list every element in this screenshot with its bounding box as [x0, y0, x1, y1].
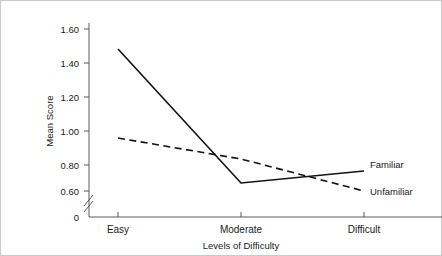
x-category-label-easy: Easy: [107, 224, 129, 235]
line-chart: 1.60 1.40 1.20 1.00 0.80 0.60 0 Easy Mod…: [1, 1, 442, 256]
series-line-familiar: [118, 49, 364, 183]
y-tick-label-0.80: 0.80: [61, 160, 80, 171]
figure-container: 1.60 1.40 1.20 1.00 0.80 0.60 0 Easy Mod…: [0, 0, 442, 256]
y-tick-label-0.60: 0.60: [61, 186, 80, 197]
y-tick-label-0: 0: [74, 212, 79, 223]
series-label-familiar: Familiar: [370, 159, 404, 170]
y-tick-label-1.00: 1.00: [61, 126, 80, 137]
y-tick-label-1.60: 1.60: [61, 24, 80, 35]
x-category-label-moderate: Moderate: [220, 224, 263, 235]
y-axis-title: Mean Score: [44, 95, 55, 146]
y-tick-label-1.40: 1.40: [61, 58, 80, 69]
series-label-unfamiliar: Unfamiliar: [370, 186, 413, 197]
x-axis-title: Levels of Difficulty: [203, 240, 280, 251]
x-category-label-difficult: Difficult: [348, 224, 381, 235]
y-tick-label-1.20: 1.20: [61, 92, 80, 103]
